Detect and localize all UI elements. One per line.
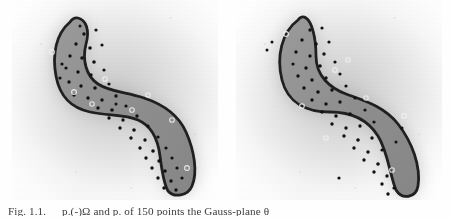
caption-prefix: Fig. 1.1. xyxy=(8,205,46,217)
figure-panel-left xyxy=(12,0,218,200)
figure-caption: Fig. 1.1. p.(-)Ω and p. of 150 points th… xyxy=(0,203,452,220)
figure-panel-right xyxy=(236,0,442,200)
caption-body: p.(-)Ω and p. of 150 points the Gauss-pl… xyxy=(62,205,269,217)
scatter-region-right xyxy=(236,0,442,200)
scatter-region-left xyxy=(12,0,218,200)
figure-root: Fig. 1.1. p.(-)Ω and p. of 150 points th… xyxy=(0,0,452,220)
